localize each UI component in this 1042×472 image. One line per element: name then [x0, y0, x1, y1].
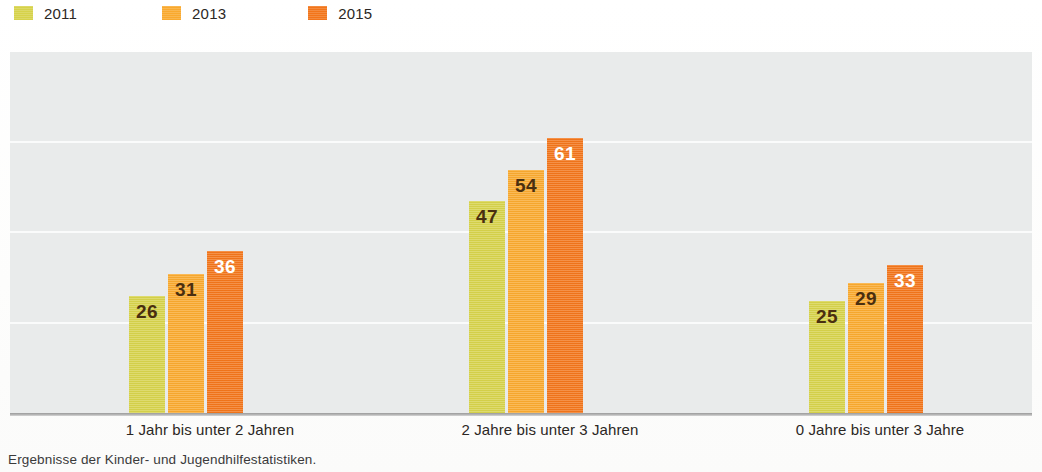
chart-page: 2011 2013 2015 263136475461252933 1 Jahr…: [0, 0, 1042, 472]
bar-value-label: 33: [887, 270, 923, 292]
legend-swatch-2015-icon: [308, 6, 327, 20]
legend-swatch-2011-icon: [14, 6, 33, 20]
bar-2015-1[interactable]: 61: [547, 138, 583, 414]
bar-value-label: 25: [809, 306, 845, 328]
bar-2011-0[interactable]: 26: [129, 296, 165, 414]
bar-value-label: 54: [508, 175, 544, 197]
x-axis-line: [10, 413, 1032, 416]
category-label-1: 2 Jahre bis unter 3 Jahren: [360, 421, 740, 438]
bar-2013-0[interactable]: 31: [168, 274, 204, 414]
chart-legend: 2011 2013 2015: [0, 0, 1042, 26]
legend-label-2011: 2011: [44, 5, 77, 22]
legend-swatch-2013-icon: [162, 6, 181, 20]
bar-value-label: 29: [848, 288, 884, 310]
legend-label-2013: 2013: [192, 5, 226, 22]
bar-value-label: 31: [168, 279, 204, 301]
bar-fill: [508, 170, 544, 414]
bar-fill: [469, 201, 505, 414]
bar-2015-2[interactable]: 33: [887, 265, 923, 414]
bar-2015-0[interactable]: 36: [207, 251, 243, 414]
legend-item-2013[interactable]: 2013: [162, 0, 226, 26]
legend-label-2015: 2015: [338, 5, 372, 22]
bar-2013-2[interactable]: 29: [848, 283, 884, 414]
legend-item-2015[interactable]: 2015: [308, 0, 372, 26]
footnote-text: Ergebnisse der Kinder- und Jugendhilfest…: [8, 452, 316, 467]
bar-value-label: 36: [207, 256, 243, 278]
bar-2011-2[interactable]: 25: [809, 301, 845, 414]
legend-item-2011[interactable]: 2011: [14, 0, 77, 26]
category-label-2: 0 Jahre bis unter 3 Jahre: [690, 421, 1042, 438]
bar-value-label: 61: [547, 143, 583, 165]
bar-value-label: 26: [129, 301, 165, 323]
bar-value-label: 47: [469, 206, 505, 228]
bar-group-1: 475461: [469, 138, 583, 414]
category-label-0: 1 Jahr bis unter 2 Jahren: [20, 421, 400, 438]
bar-2013-1[interactable]: 54: [508, 170, 544, 414]
bar-group-0: 263136: [129, 251, 243, 414]
bar-group-2: 252933: [809, 265, 923, 414]
plot-area: 263136475461252933: [10, 52, 1032, 414]
bar-fill: [547, 138, 583, 414]
bar-2011-1[interactable]: 47: [469, 201, 505, 414]
